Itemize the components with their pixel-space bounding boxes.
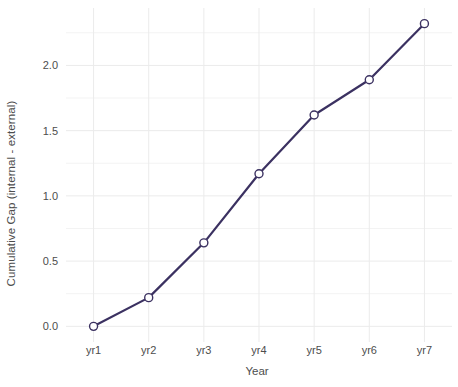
data-point <box>365 76 373 84</box>
chart-figure: Cumulative Gap (internal - external) 0.0… <box>0 0 458 387</box>
data-point <box>200 239 208 247</box>
x-axis-tick-labels: yr1yr2yr3yr4yr5yr6yr7 <box>66 344 452 362</box>
data-point <box>420 20 428 28</box>
x-axis-tick-label: yr6 <box>362 344 377 356</box>
y-axis-tick-labels: 0.00.51.01.52.0 <box>14 0 58 387</box>
x-axis-title: Year <box>62 365 452 377</box>
x-axis-tick-label: yr4 <box>251 344 266 356</box>
y-axis-tick-label: 1.0 <box>16 190 58 202</box>
data-point <box>255 170 263 178</box>
y-axis-tick-label: 0.0 <box>16 320 58 332</box>
y-axis-tick-label: 0.5 <box>16 255 58 267</box>
x-axis-tick-label: yr5 <box>307 344 322 356</box>
x-axis-tick-label: yr3 <box>196 344 211 356</box>
plot-svg <box>66 8 452 342</box>
x-axis-tick-label: yr2 <box>141 344 156 356</box>
data-point <box>90 322 98 330</box>
x-axis-tick-label: yr7 <box>417 344 432 356</box>
plot-panel <box>66 8 452 342</box>
data-point <box>145 294 153 302</box>
y-axis-tick-label: 2.0 <box>16 59 58 71</box>
x-axis-tick-label: yr1 <box>86 344 101 356</box>
y-axis-tick-label: 1.5 <box>16 125 58 137</box>
data-point <box>310 111 318 119</box>
